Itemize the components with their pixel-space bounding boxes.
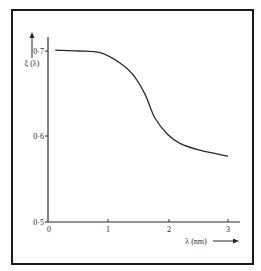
y-axis-label: ξ (λ): [25, 59, 40, 68]
x-ticks: 0 1 2 3: [47, 219, 230, 234]
y-tick-label: 0·6: [33, 132, 44, 141]
y-ticks: 0·7 0·6 0·5: [33, 47, 48, 227]
right-arrow-head-icon: [233, 239, 239, 244]
line-chart: 0·7 0·6 0·5 0 1 2 3 ξ (λ) λ (nm): [0, 0, 261, 271]
x-axis-label-group: λ (nm): [185, 237, 239, 246]
x-tick-label: 3: [226, 225, 230, 234]
x-tick-label: 0: [47, 225, 51, 234]
data-curve: [55, 50, 228, 156]
x-tick-label: 1: [106, 225, 110, 234]
y-tick-label: 0·7: [33, 47, 44, 56]
x-tick-label: 2: [167, 225, 171, 234]
x-axis-label: λ (nm): [185, 237, 207, 246]
up-arrow-head-icon: [30, 32, 35, 38]
y-tick-label: 0·5: [33, 218, 44, 227]
